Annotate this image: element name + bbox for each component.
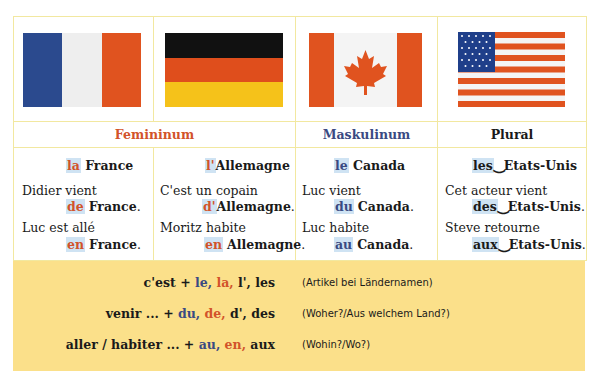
country-name: France [89, 237, 137, 252]
france-title: la France [66, 158, 133, 173]
rule-rest: aux [250, 337, 275, 352]
flag-cell-france [14, 17, 154, 121]
examples-row: la France Didier vient de France. Luc es… [14, 148, 586, 260]
country-name: ‿Etats-Unis [494, 158, 577, 173]
punctuation: . [291, 199, 295, 214]
rule-note: (Artikel bei Ländernamen) [302, 277, 433, 288]
france-flag-icon [23, 33, 141, 107]
example-lead: Steve retourne [445, 220, 540, 235]
punctuation: . [410, 199, 414, 214]
germany-flag-icon [165, 33, 283, 107]
flag-cell-usa [438, 17, 586, 121]
rule-aller-habiter: aller / habiter ... + au, en, aux [66, 337, 275, 352]
example-phrase: du Canada. [334, 199, 414, 214]
punctuation: . [409, 237, 413, 252]
punctuation: . [137, 199, 141, 214]
rule-feminine: en, [225, 337, 246, 352]
canada-column: le Canada Luc vient du Canada. Luc habit… [296, 148, 438, 260]
example-lead: Luc est allé [22, 220, 95, 235]
preposition: en [66, 237, 85, 252]
rule-cest: c'est + le, la, l', les [144, 275, 275, 290]
punctuation: . [581, 199, 585, 214]
usa-flag-icon [458, 32, 565, 107]
article-le: le [334, 158, 349, 173]
country-name: Canada [358, 199, 410, 214]
country-name: France [85, 158, 133, 173]
example-lead: Luc vient [302, 183, 361, 198]
summary-rules-box: c'est + le, la, l', les (Artikel bei Län… [13, 261, 585, 371]
rule-rest: l', les [238, 275, 275, 290]
preposition: d' [202, 199, 217, 214]
rule-lead: c'est + [144, 275, 191, 290]
article-les: les [472, 158, 494, 173]
canada-flag-icon [309, 33, 422, 107]
country-name: Canada [357, 237, 409, 252]
preposition: aux [472, 237, 499, 252]
rule-masculine: le, [195, 275, 212, 290]
punctuation: . [137, 237, 141, 252]
example-phrase: en Allemagne. [204, 237, 305, 252]
usa-column: les‿Etats-Unis Cet acteur vient des‿Etat… [438, 148, 586, 260]
example-phrase: d'Allemagne. [202, 199, 295, 214]
preposition: de [66, 199, 85, 214]
flag-cell-germany [154, 17, 296, 121]
rule-masculine: du, [178, 306, 200, 321]
article-l: l' [205, 158, 216, 173]
example-lead: Didier vient [22, 183, 97, 198]
example-phrase: aux‿Etats-Unis. [472, 237, 586, 252]
rule-feminine: la, [216, 275, 233, 290]
rule-lead: venir ... + [106, 306, 174, 321]
country-name: Allemagne [216, 158, 290, 173]
example-phrase: en France. [66, 237, 141, 252]
preposition: du [334, 199, 354, 214]
rule-note: (Woher?/Aus welchem Land?) [302, 308, 450, 319]
example-phrase: de France. [66, 199, 141, 214]
country-name: France [89, 199, 137, 214]
rule-rest: d', des [230, 306, 275, 321]
usa-title: les‿Etats-Unis [472, 158, 577, 173]
rule-lead: aller / habiter ... + [66, 337, 195, 352]
rule-venir: venir ... + du, de, d', des [106, 306, 275, 321]
flag-cell-canada [296, 17, 438, 121]
france-column: la France Didier vient de France. Luc es… [14, 148, 154, 260]
example-lead: C'est un copain [160, 183, 258, 198]
header-feminine: Femininum [14, 122, 296, 147]
example-phrase: au Canada. [334, 237, 413, 252]
article-la: la [66, 158, 81, 173]
country-name: Allemagne [227, 237, 301, 252]
rule-note: (Wohin?/Wo?) [302, 339, 370, 350]
example-lead: Luc habite [302, 220, 369, 235]
punctuation: . [582, 237, 586, 252]
rule-feminine: de, [205, 306, 226, 321]
gender-header-row: Femininum Maskulinum Plural [14, 122, 586, 148]
flags-row [14, 17, 586, 122]
country-name: Allemagne [217, 199, 291, 214]
preposition: des [472, 199, 498, 214]
example-lead: Cet acteur vient [445, 183, 547, 198]
header-plural: Plural [438, 122, 586, 147]
country-name: ‿Etats-Unis [498, 199, 581, 214]
country-name: Canada [353, 158, 405, 173]
example-lead: Moritz habite [160, 220, 246, 235]
canada-title: le Canada [334, 158, 405, 173]
preposition: en [204, 237, 223, 252]
preposition: au [334, 237, 353, 252]
example-phrase: des‿Etats-Unis. [472, 199, 585, 214]
header-masculine: Maskulinum [296, 122, 438, 147]
rule-masculine: au, [199, 337, 221, 352]
country-article-table: Femininum Maskulinum Plural la France Di… [13, 16, 587, 261]
country-name: ‿Etats-Unis [499, 237, 582, 252]
germany-title: l'Allemagne [205, 158, 290, 173]
germany-column: l'Allemagne C'est un copain d'Allemagne.… [154, 148, 296, 260]
